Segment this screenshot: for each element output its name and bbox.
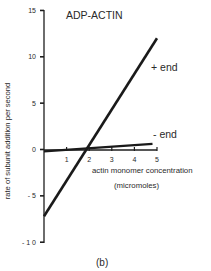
minus-end-label: - end [153, 128, 177, 140]
x-tick-label: 4 [132, 156, 136, 163]
y-tick-label: - 1 0 [22, 239, 36, 246]
figure-caption: (b) [96, 257, 108, 268]
x-tick-label: 3 [110, 156, 114, 163]
y-ticks: 151050- 5- 1 0 [22, 7, 44, 246]
plus-end-label: + end [151, 61, 178, 73]
x-axis-units: (micromoles) [114, 181, 159, 190]
x-tick-label: 2 [87, 156, 91, 163]
chart: 151050- 5- 1 0 12345 ADP-ACTIN + end - e… [0, 0, 211, 271]
y-tick-label: 10 [28, 53, 36, 60]
y-tick-label: 15 [28, 7, 36, 14]
y-tick-label: 0 [32, 146, 36, 153]
x-tick-label: 1 [65, 156, 69, 163]
y-axis-label: rate of subunit addition per second [3, 83, 12, 200]
y-tick-label: 5 [32, 100, 36, 107]
x-axis-label: actin monomer concentration [92, 166, 193, 175]
x-tick-label: 5 [155, 156, 159, 163]
chart-title: ADP-ACTIN [66, 9, 123, 21]
y-tick-label: - 5 [28, 192, 36, 199]
